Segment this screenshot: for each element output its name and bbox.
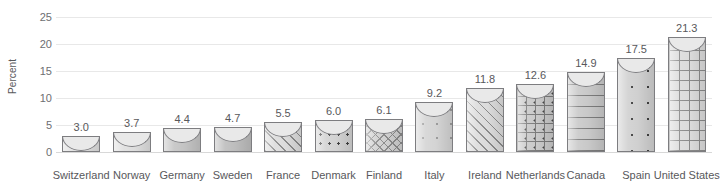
bar-fill-pattern	[669, 38, 705, 151]
bar[interactable]	[62, 136, 100, 152]
bar-value-label: 6.1	[353, 104, 415, 116]
bar[interactable]	[415, 102, 453, 152]
y-tick-label-10: 10	[26, 92, 52, 104]
bar-group: 14.9Canada	[567, 0, 605, 189]
bar-group: 4.4Germany	[163, 0, 201, 189]
bar-group: 9.2Italy	[415, 0, 453, 189]
bar-value-label: 21.3	[656, 22, 718, 34]
bar-value-label: 14.9	[555, 57, 617, 69]
x-axis-category-label: United States	[646, 169, 722, 181]
bar-chart: Percent 0510152025 3.0Switzerland3.7Norw…	[0, 0, 722, 189]
bar[interactable]	[516, 84, 554, 152]
bar-value-label: 17.5	[605, 43, 667, 55]
bar-group: 6.0Denmark	[315, 0, 353, 189]
bar-group: 21.3United States	[668, 0, 706, 189]
bar-value-label: 12.6	[504, 69, 566, 81]
bar-group: 5.5France	[264, 0, 302, 189]
y-tick-label-15: 15	[26, 65, 52, 77]
bar[interactable]	[668, 37, 706, 152]
bar[interactable]	[567, 72, 605, 152]
bar[interactable]	[113, 132, 151, 152]
plot-area: 3.0Switzerland3.7Norway4.4Germany4.7Swed…	[56, 0, 712, 189]
bar[interactable]	[163, 128, 201, 152]
bar-group: 3.0Switzerland	[62, 0, 100, 189]
y-tick-label-0: 0	[26, 146, 52, 158]
bar-group: 6.1Finland	[365, 0, 403, 189]
bar[interactable]	[264, 122, 302, 152]
y-tick-label-20: 20	[26, 38, 52, 50]
bar-group: 3.7Norway	[113, 0, 151, 189]
y-axis-tick-labels: 0510152025	[22, 0, 52, 189]
bar-group: 17.5Spain	[617, 0, 655, 189]
y-axis-title: Percent	[4, 0, 20, 152]
y-tick-label-25: 25	[26, 11, 52, 23]
bar-value-label: 9.2	[403, 87, 465, 99]
bar[interactable]	[315, 120, 353, 152]
bar[interactable]	[617, 58, 655, 153]
bar[interactable]	[466, 88, 504, 152]
bar-group: 11.8Ireland	[466, 0, 504, 189]
y-tick-label-5: 5	[26, 119, 52, 131]
bar-group: 4.7Sweden	[214, 0, 252, 189]
bar[interactable]	[214, 127, 252, 152]
bar[interactable]	[365, 119, 403, 152]
bar-group: 12.6Netherlands	[516, 0, 554, 189]
